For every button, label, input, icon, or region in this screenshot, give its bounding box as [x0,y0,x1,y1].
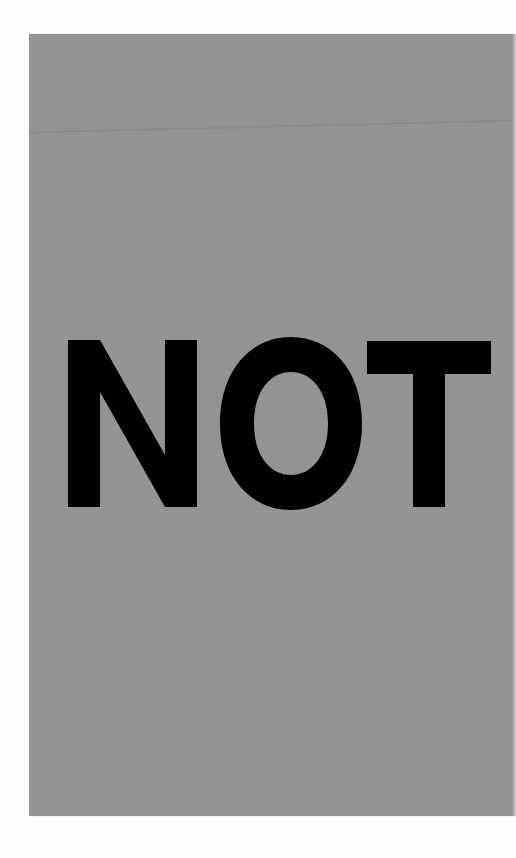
not-lettering [0,0,516,858]
letter-o [220,337,362,510]
letter-n [68,340,197,507]
letter-t [367,341,491,507]
sign-word: NOT [0,0,516,858]
